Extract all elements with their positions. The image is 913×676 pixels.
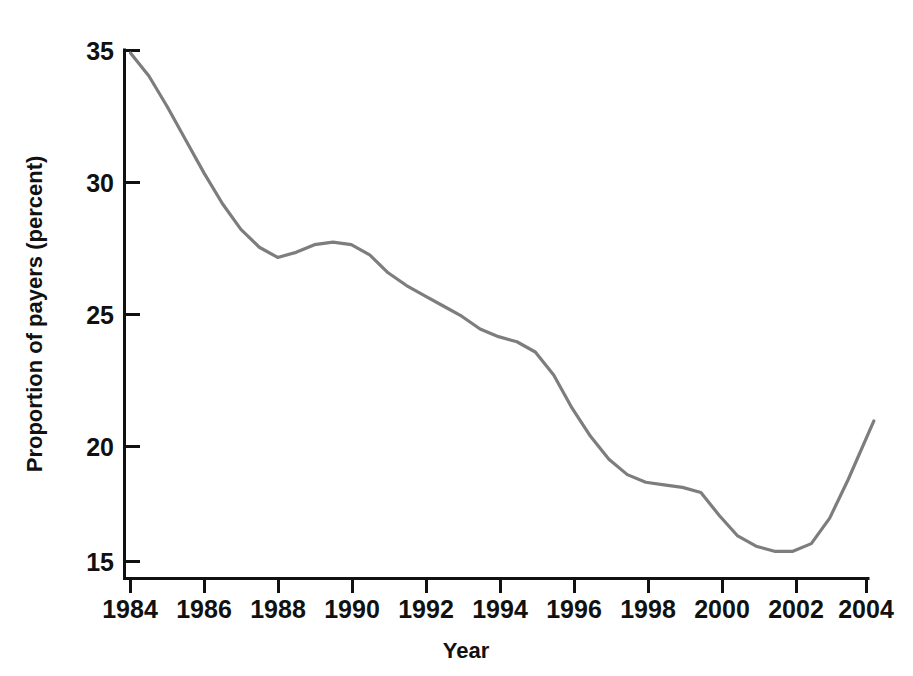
x-tick-label-1984: 1984: [102, 595, 158, 623]
x-tick-label-2002: 2002: [768, 595, 824, 623]
x-tick-label-1990: 1990: [324, 595, 380, 623]
x-axis-title: Year: [443, 638, 490, 663]
x-tick-label-2004: 2004: [838, 595, 894, 623]
line-chart: 35 30 25 20 15 1984 1986 1988 1990 19: [0, 0, 913, 676]
x-tick-label-1998: 1998: [620, 595, 676, 623]
y-tick-label-25: 25: [86, 301, 114, 329]
y-tick-label-15: 15: [86, 548, 114, 576]
chart-page: 35 30 25 20 15 1984 1986 1988 1990 19: [0, 0, 913, 676]
y-tick-label-20: 20: [86, 433, 114, 461]
y-axis-title: Proportion of payers (percent): [22, 156, 47, 473]
chart-background: [0, 0, 913, 676]
x-tick-label-1986: 1986: [176, 595, 232, 623]
x-tick-label-1994: 1994: [472, 595, 528, 623]
x-tick-label-1996: 1996: [546, 595, 602, 623]
y-tick-label-30: 30: [86, 169, 114, 197]
x-tick-label-1988: 1988: [250, 595, 306, 623]
x-tick-label-1992: 1992: [398, 595, 454, 623]
y-tick-label-35: 35: [86, 37, 114, 65]
x-axis-tick-labels: 1984 1986 1988 1990 1992 1994 1996 1998 …: [102, 595, 894, 623]
x-tick-label-2000: 2000: [694, 595, 750, 623]
